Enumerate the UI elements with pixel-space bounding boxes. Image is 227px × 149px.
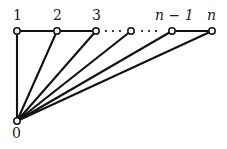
graph-vertex-v3 (93, 28, 99, 34)
graph-edge (17, 31, 96, 121)
graph-vertex-v1 (14, 28, 20, 34)
vertex-label-v3: 3 (92, 8, 101, 22)
ellipsis-dot (112, 30, 114, 32)
graph-edge (17, 31, 172, 121)
graph-vertex-vn1 (169, 28, 175, 34)
vertex-label-v0: 0 (12, 126, 21, 140)
graph-vertex-vmid (128, 28, 134, 34)
ellipsis-dot (105, 30, 107, 32)
ellipsis-dot (119, 30, 121, 32)
graph-vertex-v2 (54, 28, 60, 34)
ellipsis-dot (155, 30, 157, 32)
graph-vertex-v0 (14, 118, 20, 124)
vertex-label-v2: 2 (53, 8, 62, 22)
graph-edge (17, 31, 57, 121)
vertex-label-vn: n (207, 8, 216, 22)
fan-graph-figure: 0123n − 1n (0, 0, 227, 149)
vertex-label-vn1: n − 1 (155, 8, 194, 22)
graph-vertex-vn (209, 28, 215, 34)
ellipsis-dot (141, 30, 143, 32)
edges-group (17, 31, 212, 121)
vertex-label-v1: 1 (13, 8, 22, 22)
ellipsis-dot (148, 30, 150, 32)
